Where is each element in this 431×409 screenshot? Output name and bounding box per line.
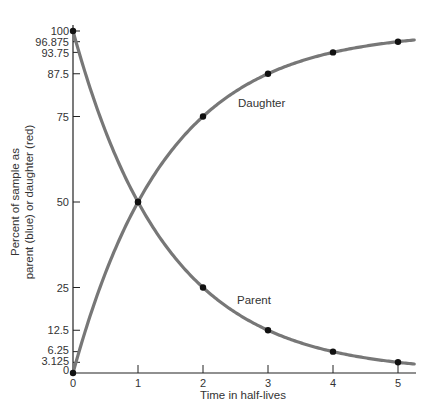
daughter-data-point (265, 71, 271, 77)
parent-data-point (200, 284, 206, 290)
daughter-data-point (395, 38, 401, 44)
y-tick-label: 93.75 (41, 47, 69, 59)
y-tick-label: 25 (57, 282, 69, 294)
y-tick-label: 75 (57, 111, 69, 123)
daughter-curve (73, 40, 414, 373)
parent-data-point (265, 327, 271, 333)
axes: 03.1256.2512.525507587.593.7596.87510001… (35, 25, 416, 389)
y-tick-label: 3.125 (41, 355, 69, 367)
y-tick-label: 50 (57, 196, 69, 208)
y-axis-title-line-1: Percent of sample as (9, 148, 21, 256)
parent-curve (73, 31, 414, 364)
parent-curve-label: Parent (237, 294, 272, 306)
daughter-curve-label: Daughter (238, 97, 285, 109)
x-tick-label: 2 (200, 377, 206, 389)
daughter-data-point (135, 199, 141, 205)
x-tick-label: 1 (135, 377, 141, 389)
y-axis-title-line-2: parent (blue) or daughter (red) (23, 124, 35, 279)
x-tick-label: 0 (70, 377, 76, 389)
markers (70, 28, 401, 376)
daughter-data-point (330, 49, 336, 55)
x-tick-label: 4 (330, 377, 336, 389)
parent-data-point (395, 359, 401, 365)
half-life-chart: 03.1256.2512.525507587.593.7596.87510001… (0, 0, 431, 409)
y-tick-label: 100 (51, 25, 69, 37)
daughter-data-point (70, 370, 76, 376)
y-tick-label: 87.5 (48, 68, 69, 80)
y-tick-label: 96.875 (35, 36, 69, 48)
y-tick-label: 6.25 (48, 344, 69, 356)
y-tick-label: 12.5 (48, 324, 69, 336)
x-axis-title: Time in half-lives (200, 389, 286, 401)
curves (73, 31, 414, 373)
parent-data-point (330, 348, 336, 354)
x-tick-label: 5 (395, 377, 401, 389)
x-tick-label: 3 (265, 377, 271, 389)
daughter-data-point (200, 113, 206, 119)
parent-data-point (70, 28, 76, 34)
